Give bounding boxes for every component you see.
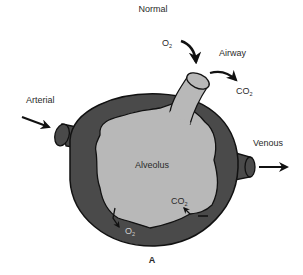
airway-label: Airway — [219, 48, 247, 58]
diagram-title: Normal — [138, 4, 167, 14]
co2-outflow-arrow — [210, 72, 236, 80]
o2-inflow-label: O2 — [162, 38, 172, 49]
venous-label: Venous — [253, 138, 284, 148]
alveolus-label: Alveolus — [135, 160, 170, 170]
alveolus-diagram: Normal O2 Airway CO2 Arterial Venous Alv… — [0, 0, 303, 275]
co2-outflow-label: CO2 — [236, 86, 253, 97]
panel-label: A — [149, 255, 156, 265]
o2-inflow-arrow — [181, 41, 196, 62]
arterial-label: Arterial — [26, 95, 55, 105]
arterial-flow-arrow — [22, 117, 49, 127]
